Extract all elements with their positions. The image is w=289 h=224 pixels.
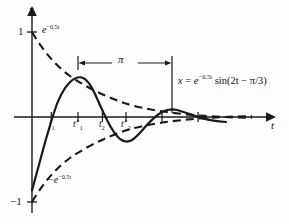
y-tick-label-one: 1	[18, 26, 24, 37]
t1star-superscript: ∗	[76, 118, 80, 124]
x-tick-label-t2: t2	[99, 120, 105, 132]
x-axis-label: t	[271, 120, 274, 131]
t2-subscript: 2	[102, 125, 105, 131]
t2star-subscript: 2	[128, 125, 131, 131]
envelope-upper-exponent: −0.5t	[46, 23, 59, 30]
equation-label: x = e−0.5t sin(2t − π/3)	[178, 74, 267, 86]
x-tick-label-t1-star: t∗1	[73, 119, 83, 132]
x-tick-label-t1: t1	[49, 120, 55, 132]
t2star-superscript: ∗	[124, 118, 128, 124]
envelope-lower-label: −e−0.5t	[47, 174, 71, 185]
figure-damped-sinusoid: x t 1 −1 e−0.5t −e−0.5t π x = e−0.5t sin…	[0, 0, 289, 224]
equation-equals: =	[185, 75, 191, 86]
period-label: π	[118, 54, 124, 65]
equation-trig: sin(2t − π/3)	[215, 75, 267, 86]
envelope-lower-exponent: −0.5t	[58, 173, 71, 180]
y-axis-label: x	[29, 4, 34, 15]
equation-exponent: −0.5t	[199, 73, 213, 80]
x-tick-label-t2-star: t∗2	[121, 119, 131, 132]
t1-subscript: 1	[52, 125, 55, 131]
envelope-lower-base: −e	[47, 174, 58, 185]
y-tick-label-negative-one: −1	[10, 196, 22, 207]
equation-lhs: x	[178, 75, 183, 86]
period-span-annotation	[78, 56, 172, 113]
envelope-upper-label: e−0.5t	[42, 24, 59, 35]
t1star-subscript: 1	[80, 125, 83, 131]
